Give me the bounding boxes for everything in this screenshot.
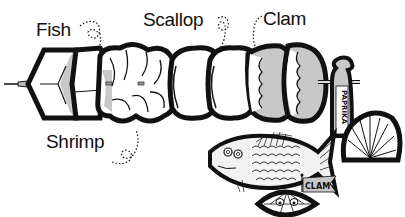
scallop-leader: [218, 17, 228, 48]
clam-label: Clam: [263, 9, 306, 28]
svg-text:CLAM: CLAM: [305, 182, 330, 191]
seafood-kebab-illustration: PAPRIKA: [0, 0, 405, 217]
shrimp-leader: [112, 130, 138, 164]
clam-chunk-icon: [248, 45, 327, 122]
svg-text:PAPRIKA: PAPRIKA: [340, 90, 348, 124]
fish-leader: [80, 21, 101, 48]
shrimp-label: Shrimp: [46, 132, 104, 151]
fish-eye-icon: [224, 148, 232, 156]
skewer-icon: [4, 81, 28, 87]
fish-chunk-icon: [28, 48, 104, 118]
scallop-label: Scallop: [143, 10, 203, 29]
shrimp-chunk-icon: [98, 44, 179, 121]
clam-leader: [253, 16, 262, 48]
fish-label: Fish: [36, 20, 71, 39]
